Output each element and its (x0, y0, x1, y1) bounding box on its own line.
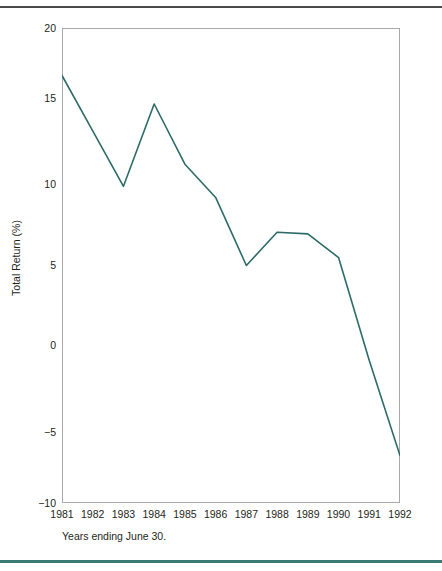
x-tick-1992: 1992 (380, 508, 420, 520)
y-axis-tick-labels: 20 15 10 5 0 −5 −10 (0, 0, 56, 560)
y-tick-20: 20 (10, 23, 56, 33)
line-chart-figure: 20 15 10 5 0 −5 −10 Total Return (%) 198… (0, 0, 442, 560)
y-tick-neg10: −10 (10, 498, 56, 508)
figure-page: 20 15 10 5 0 −5 −10 Total Return (%) 198… (0, 0, 442, 571)
y-axis-title: Total Return (%) (10, 188, 22, 328)
bottom-divider-rule (0, 560, 442, 563)
y-tick-neg5: −5 (10, 427, 56, 437)
chart-caption: Years ending June 30. (62, 530, 166, 542)
data-series-line (62, 76, 400, 456)
x-axis-tick-labels: 1981198219831984198519861987198819891990… (62, 508, 400, 524)
y-tick-15: 15 (10, 93, 56, 103)
chart-svg (62, 28, 400, 503)
y-tick-0: 0 (10, 340, 56, 350)
